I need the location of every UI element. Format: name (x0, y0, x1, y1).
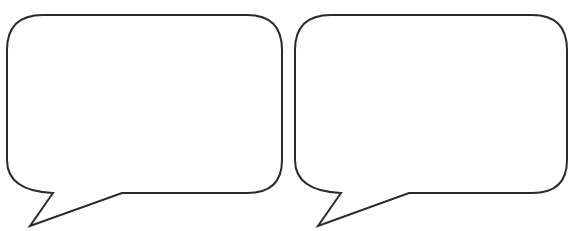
speech-bubble-left (7, 15, 282, 226)
speech-bubble-right (295, 15, 567, 226)
speech-bubbles-canvas (0, 0, 569, 231)
